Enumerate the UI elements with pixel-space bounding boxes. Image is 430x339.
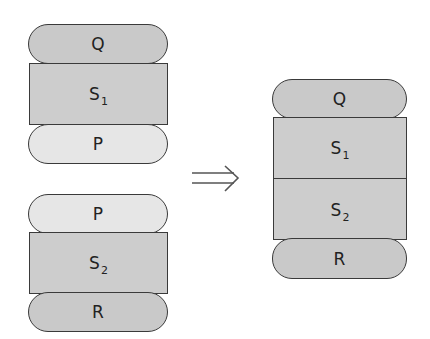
p-pill-top-stack: P xyxy=(28,124,168,164)
r-pill-right: R xyxy=(272,238,407,279)
s1-label: S1 xyxy=(89,84,108,104)
p-pill-bottom-stack: P xyxy=(28,194,168,234)
q-label: Q xyxy=(333,89,346,109)
double-arrow-right-icon xyxy=(190,164,242,196)
s1-rect-left: S1 xyxy=(29,63,168,125)
r-label: R xyxy=(334,249,346,269)
s2-rect-left: S2 xyxy=(29,232,168,294)
p-label: P xyxy=(93,134,103,154)
r-label: R xyxy=(92,302,104,322)
q-label: Q xyxy=(91,34,104,54)
p-label: P xyxy=(93,204,103,224)
s2-label: S2 xyxy=(89,253,108,273)
s1-label-right: S1 xyxy=(273,117,407,178)
r-pill-bottom-left: R xyxy=(28,292,168,332)
q-pill-top-left: Q xyxy=(28,24,168,64)
q-pill-right: Q xyxy=(272,79,407,119)
s2-label-right: S2 xyxy=(273,179,407,240)
